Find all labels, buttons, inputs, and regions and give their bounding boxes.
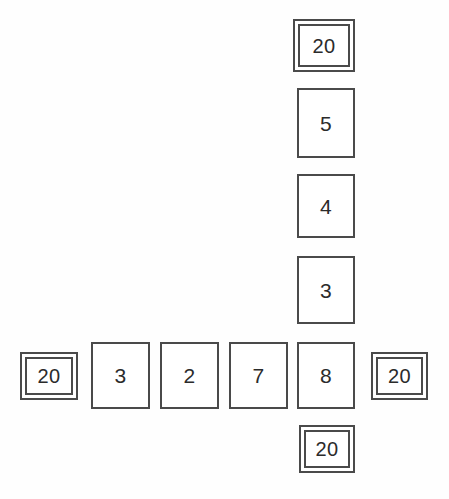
intersection-cell[interactable]: 8	[297, 342, 355, 409]
cell-value: 20	[388, 366, 411, 386]
inner-frame: 20	[304, 430, 350, 468]
inner-frame: 20	[298, 24, 350, 67]
cell-value: 7	[252, 365, 264, 386]
cell-value: 3	[320, 280, 332, 301]
row-cell-2[interactable]: 2	[160, 342, 219, 409]
column-cell-1[interactable]: 5	[297, 88, 355, 158]
row-cell-sentinel-left[interactable]: 20	[20, 352, 78, 400]
inner-frame: 20	[376, 357, 423, 395]
cell-value: 8	[320, 365, 332, 386]
cell-value: 20	[312, 36, 335, 56]
cross-grid-diagram: 20 5 4 3 20 3 2 7 8 20 20	[0, 0, 449, 499]
column-cell-sentinel-top[interactable]: 20	[293, 19, 355, 72]
row-cell-sentinel-right[interactable]: 20	[371, 352, 428, 400]
cell-value: 3	[114, 365, 126, 386]
cell-value: 20	[37, 366, 60, 386]
cell-value: 5	[320, 113, 332, 134]
cell-value: 20	[315, 439, 338, 459]
column-cell-3[interactable]: 3	[297, 256, 355, 324]
row-cell-1[interactable]: 3	[91, 342, 150, 409]
cell-value: 4	[320, 196, 332, 217]
inner-frame: 20	[25, 357, 73, 395]
row-cell-3[interactable]: 7	[229, 342, 288, 409]
column-cell-sentinel-bottom[interactable]: 20	[299, 425, 355, 473]
column-cell-2[interactable]: 4	[297, 174, 355, 238]
cell-value: 2	[183, 365, 195, 386]
